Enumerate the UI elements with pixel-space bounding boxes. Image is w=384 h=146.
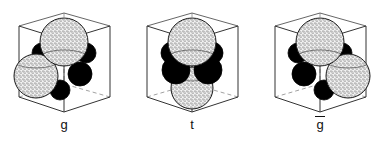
panel-g: g bbox=[0, 0, 128, 146]
panel-label-g-bar: g bbox=[256, 116, 384, 133]
panel-label-g: g bbox=[0, 116, 128, 133]
stipple-sphere-upper-g-bar bbox=[296, 18, 344, 66]
cube-diagram-t bbox=[128, 0, 256, 118]
figure-root: g bbox=[0, 0, 384, 146]
panel-label-text-t: t bbox=[190, 116, 194, 133]
panel-label-t: t bbox=[128, 116, 256, 133]
panel-t: t bbox=[128, 0, 256, 146]
panel-label-text-g-bar: g bbox=[316, 116, 323, 133]
cube-diagram-g bbox=[0, 0, 128, 118]
stipple-sphere-upper-g bbox=[40, 18, 88, 66]
cube-diagram-g-bar bbox=[256, 0, 384, 118]
stipple-sphere-upper-t bbox=[168, 18, 216, 66]
panel-g-bar: g bbox=[256, 0, 384, 146]
panel-label-text-g: g bbox=[60, 116, 67, 133]
